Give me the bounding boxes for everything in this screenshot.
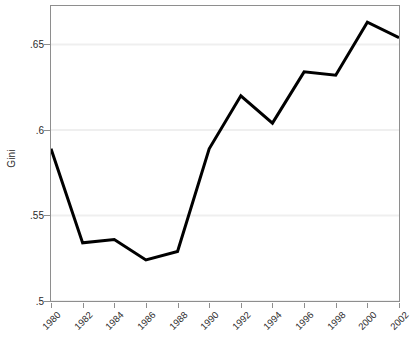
y-axis-tick-mark bbox=[44, 44, 50, 45]
x-axis-tick-mark bbox=[209, 303, 210, 308]
x-axis-tick-label: 1992 bbox=[230, 309, 253, 332]
x-axis-tick-label: 1982 bbox=[71, 309, 94, 332]
line-chart-svg bbox=[51, 6, 399, 301]
x-axis-tick-label: 1996 bbox=[293, 309, 316, 332]
x-axis-tick-label: 1986 bbox=[135, 309, 158, 332]
y-axis-title-label: Gini bbox=[6, 149, 17, 168]
x-axis-tick-mark bbox=[114, 303, 115, 308]
x-axis-tick-mark bbox=[367, 303, 368, 308]
x-axis-tick-label: 1984 bbox=[103, 309, 126, 332]
x-axis-tick-mark bbox=[399, 303, 400, 308]
chart-figure: Gini .5.55.6.65 198019821984198619881990… bbox=[0, 0, 410, 345]
x-axis-tick-label: 2000 bbox=[356, 309, 379, 332]
gridlines bbox=[51, 44, 399, 301]
x-axis-tick-mark bbox=[83, 303, 84, 308]
data-series-line bbox=[51, 22, 399, 260]
x-axis-tick-labels: 1980198219841986198819901992199419961998… bbox=[50, 303, 410, 345]
x-axis-tick-mark bbox=[336, 303, 337, 308]
x-axis-tick-mark bbox=[304, 303, 305, 308]
y-axis-tick-mark bbox=[44, 130, 50, 131]
x-axis-tick-mark bbox=[51, 303, 52, 308]
x-axis-tick-label: 1994 bbox=[261, 309, 284, 332]
x-axis-tick-mark bbox=[272, 303, 273, 308]
y-axis-tick-mark bbox=[44, 215, 50, 216]
x-axis-tick-label: 1990 bbox=[198, 309, 221, 332]
y-axis-tick-mark bbox=[44, 301, 50, 302]
x-axis-tick-mark bbox=[146, 303, 147, 308]
plot-area bbox=[50, 5, 400, 302]
x-axis-tick-mark bbox=[241, 303, 242, 308]
x-axis-tick-label: 2002 bbox=[388, 309, 410, 332]
x-axis-tick-label: 1998 bbox=[324, 309, 347, 332]
y-axis-tick-labels: .5.55.6.65 bbox=[18, 0, 48, 345]
x-axis-tick-label: 1988 bbox=[166, 309, 189, 332]
x-axis-tick-mark bbox=[178, 303, 179, 308]
